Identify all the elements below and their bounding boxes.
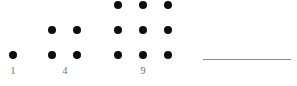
dot — [164, 51, 172, 59]
group-label-9: 9 — [136, 66, 150, 76]
dot — [139, 26, 147, 34]
dot — [114, 1, 122, 9]
dot — [73, 26, 81, 34]
dot — [164, 26, 172, 34]
group-label-1: 1 — [6, 66, 20, 76]
horizontal-rule — [203, 59, 291, 60]
dot — [114, 26, 122, 34]
square-numbers-dot-diagram: 149 — [0, 0, 297, 86]
dot — [139, 1, 147, 9]
dot — [48, 26, 56, 34]
dot — [114, 51, 122, 59]
dot — [48, 51, 56, 59]
dot — [139, 51, 147, 59]
group-label-4: 4 — [58, 66, 72, 76]
dot — [73, 51, 81, 59]
dot — [9, 51, 17, 59]
dot — [164, 1, 172, 9]
